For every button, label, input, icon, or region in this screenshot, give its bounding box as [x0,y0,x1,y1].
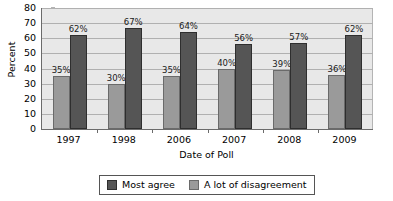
bar-value-label: 64% [179,22,198,31]
bar[interactable] [125,28,142,129]
y-tick-label: 30 [14,79,36,89]
bar-value-label: 35% [162,66,181,75]
x-tick-mark [152,129,153,133]
y-tick-label: 70 [14,18,36,28]
bar-column: 62% [70,8,87,129]
bar[interactable] [235,44,252,129]
bar-column: 67% [125,8,142,129]
bar-column: 64% [180,8,197,129]
bar-group: 35%64% [152,8,207,129]
bar-value-label: 62% [69,25,88,34]
bar-value-label: 57% [289,33,308,42]
bar[interactable] [328,75,345,129]
bar-column: 30% [108,8,125,129]
bar-column: 57% [290,8,307,129]
x-tick-mark [208,129,209,133]
y-tick-label: 50 [14,49,36,59]
bar[interactable] [290,43,307,129]
bar[interactable] [163,76,180,129]
bar-column: 36% [328,8,345,129]
bar-value-label: 39% [272,60,291,69]
bar-value-label: 56% [234,34,253,43]
y-axis-ticks: 80 70 60 50 40 30 20 10 0 [14,8,36,129]
bar-value-label: 62% [344,25,363,34]
x-tick-label: 2006 [151,134,206,147]
x-tick-label: 2008 [262,134,317,147]
x-tick-mark [97,129,98,133]
y-tick-label: 60 [14,33,36,43]
y-tick-label: 20 [14,94,36,104]
bar-group: 35%62% [42,8,97,129]
bar-value-label: 36% [327,65,346,74]
x-tick-mark [318,129,319,133]
bar-value-label: 30% [107,74,126,83]
y-tick-label: 40 [14,64,36,74]
x-tick-label: 1997 [41,134,96,147]
bar-groups: 35%62%30%67%35%64%40%56%39%57%36%62% [42,8,373,129]
y-tick-label: 80 [14,3,36,13]
bar-column: 40% [218,8,235,129]
x-tick-mark [263,129,264,133]
chart-title [0,0,393,5]
bar-value-label: 40% [217,59,236,68]
bar-column: 35% [53,8,70,129]
bar-column: 62% [345,8,362,129]
x-tick-label: 2009 [317,134,372,147]
bar[interactable] [218,69,235,130]
x-axis-ticks: 199719982006200720082009 [41,134,372,147]
legend-label: Most agree [122,180,175,190]
legend-swatch-icon [189,180,199,190]
bar-group: 36%62% [318,8,373,129]
bar-group: 40%56% [208,8,263,129]
bar-chart: Percent 80 70 60 50 40 30 20 10 0 35%62%… [0,0,393,201]
legend-item-a-lot-of-disagreement: A lot of disagreement [189,180,307,190]
y-tick-label: 10 [14,109,36,119]
y-tick-label: 0 [14,124,36,134]
bar-group: 30%67% [97,8,152,129]
bar[interactable] [70,35,87,129]
bar-value-label: 67% [124,18,143,27]
bar-column: 39% [273,8,290,129]
bar[interactable] [273,70,290,129]
bar[interactable] [108,84,125,129]
bar[interactable] [345,35,362,129]
x-axis-label: Date of Poll [41,149,372,160]
bar[interactable] [53,76,70,129]
bar-column: 35% [163,8,180,129]
bar[interactable] [180,32,197,129]
plot-area: 35%62%30%67%35%64%40%56%39%57%36%62% [41,8,373,130]
chart-legend: Most agree A lot of disagreement [99,175,315,195]
legend-label: A lot of disagreement [204,180,307,190]
legend-swatch-icon [107,180,117,190]
x-tick-label: 1998 [96,134,151,147]
x-tick-label: 2007 [207,134,262,147]
bar-group: 39%57% [263,8,318,129]
bar-column: 56% [235,8,252,129]
legend-item-most-agree: Most agree [107,180,175,190]
bar-value-label: 35% [52,66,71,75]
